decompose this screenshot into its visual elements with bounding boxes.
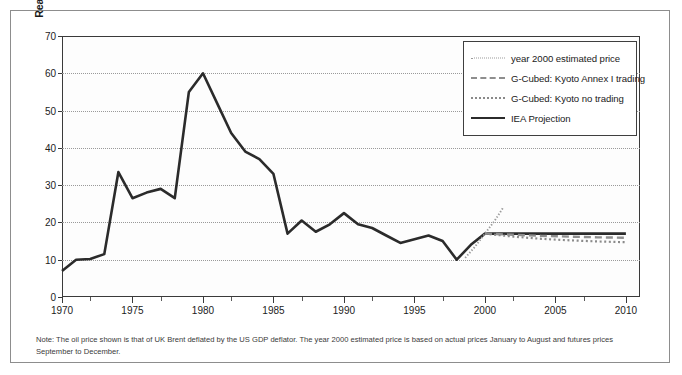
y-tick-label: 40 xyxy=(45,142,56,153)
legend-swatch-kyoto-no-trading xyxy=(471,93,505,103)
x-tick-label: 2005 xyxy=(544,305,566,316)
x-tick-mark xyxy=(626,297,627,303)
y-tick-label: 20 xyxy=(45,217,56,228)
x-tick-mark xyxy=(555,297,556,303)
x-tick-minor-mark xyxy=(372,297,373,301)
x-tick-minor-mark xyxy=(302,297,303,301)
x-tick-mark xyxy=(344,297,345,303)
x-tick-mark xyxy=(132,297,133,303)
x-tick-mark xyxy=(485,297,486,303)
y-tick-label: 30 xyxy=(45,180,56,191)
legend-item: G-Cubed: Kyoto Annex I trading xyxy=(471,68,629,88)
x-tick-minor-mark xyxy=(443,297,444,301)
x-tick-minor-mark xyxy=(90,297,91,301)
chart-legend: year 2000 estimated price G-Cubed: Kyoto… xyxy=(463,41,637,136)
y-tick-label: 50 xyxy=(45,105,56,116)
legend-item: IEA Projection xyxy=(471,108,629,128)
x-tick-minor-mark xyxy=(584,297,585,301)
x-tick-minor-mark xyxy=(231,297,232,301)
legend-item: year 2000 estimated price xyxy=(471,48,629,68)
x-tick-label: 2010 xyxy=(615,305,637,316)
figure-note: Note: The oil price shown is that of UK … xyxy=(36,334,636,358)
x-tick-minor-mark xyxy=(513,297,514,301)
x-tick-mark xyxy=(203,297,204,303)
x-tick-mark xyxy=(414,297,415,303)
x-tick-label: 1990 xyxy=(333,305,355,316)
x-tick-label: 1980 xyxy=(192,305,214,316)
y-axis-title: Real oil price $(1990) per barrel xyxy=(33,0,49,72)
legend-label: year 2000 estimated price xyxy=(511,53,620,64)
legend-label: IEA Projection xyxy=(511,113,571,124)
legend-swatch-year-2000-estimated-price xyxy=(471,53,505,63)
y-tick-label: 10 xyxy=(45,254,56,265)
x-tick-minor-mark xyxy=(161,297,162,301)
legend-swatch-kyoto-annex-i-trading xyxy=(471,73,505,83)
x-tick-label: 1995 xyxy=(403,305,425,316)
x-tick-mark xyxy=(62,297,63,303)
legend-label: G-Cubed: Kyoto no trading xyxy=(511,93,624,104)
legend-swatch-iea-projection xyxy=(471,113,505,123)
legend-label: G-Cubed: Kyoto Annex I trading xyxy=(511,73,645,84)
y-tick-label: 0 xyxy=(50,292,56,303)
figure-canvas: 010203040506070 197019751980198519901995… xyxy=(0,0,682,375)
x-tick-label: 1970 xyxy=(51,305,73,316)
x-tick-mark xyxy=(273,297,274,303)
x-tick-label: 2000 xyxy=(474,305,496,316)
legend-item: G-Cubed: Kyoto no trading xyxy=(471,88,629,108)
x-tick-label: 1985 xyxy=(262,305,284,316)
x-tick-label: 1975 xyxy=(121,305,143,316)
